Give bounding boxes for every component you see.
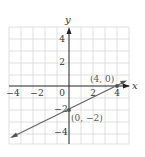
y-tick-neg4: −4 <box>54 127 68 137</box>
x-tick-0: 0 <box>59 88 65 98</box>
y-tick-4: 4 <box>59 34 65 44</box>
line-arrow-left-icon <box>10 133 18 139</box>
x-axis-label: x <box>132 80 138 91</box>
point-0-neg2 <box>67 108 71 112</box>
point-4-0 <box>115 84 119 88</box>
x-tick-neg2: −2 <box>30 88 43 98</box>
point-0-neg2-label: (0, −2) <box>71 113 103 123</box>
x-tick-4: 4 <box>114 88 120 98</box>
y-tick-2: 2 <box>59 57 65 67</box>
coordinate-plane: y x −4 −2 0 2 4 4 2 −2 −4 (4, 0) (0, −2) <box>0 0 145 157</box>
point-4-0-label: (4, 0) <box>90 74 114 84</box>
x-tick-neg4: −4 <box>6 88 20 98</box>
y-axis-label: y <box>64 14 71 25</box>
y-axis-arrow-icon <box>67 27 72 34</box>
